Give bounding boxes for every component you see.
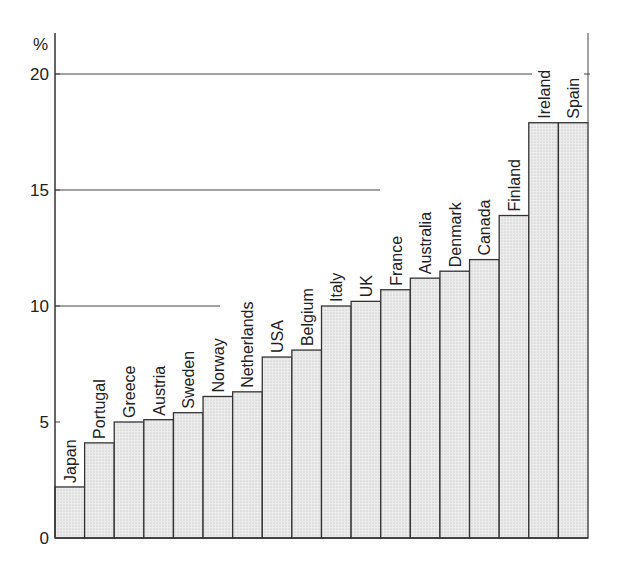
bar-austria <box>144 420 174 538</box>
bar-label-japan: Japan <box>62 439 79 483</box>
bar-sweden <box>173 413 203 538</box>
bar-spain <box>558 123 588 538</box>
y-unit-label: % <box>33 35 48 54</box>
bar-label-italy: Italy <box>328 273 345 302</box>
y-tick-label-20: 20 <box>30 65 49 84</box>
bar-finland <box>499 216 529 538</box>
bar-label-austria: Austria <box>151 366 168 416</box>
y-tick-label-15: 15 <box>30 181 49 200</box>
bar-uk <box>351 301 381 538</box>
bar-label-australia: Australia <box>417 212 434 274</box>
bar-usa <box>262 357 292 538</box>
y-tick-label-0: 0 <box>40 529 49 548</box>
bar-label-belgium: Belgium <box>299 288 316 346</box>
bar-label-ireland: Ireland <box>536 70 553 119</box>
bar-label-norway: Norway <box>210 338 227 392</box>
bar-norway <box>203 396 233 538</box>
bar-canada <box>470 260 500 538</box>
bar-label-portugal: Portugal <box>91 379 108 439</box>
bar-label-france: France <box>388 236 405 286</box>
bar-label-denmark: Denmark <box>447 201 464 267</box>
bar-italy <box>322 306 352 538</box>
bar-japan <box>55 487 85 538</box>
bar-belgium <box>292 350 322 538</box>
bar-label-uk: UK <box>358 275 375 298</box>
bar-ireland <box>529 123 559 538</box>
bar-portugal <box>85 443 115 538</box>
bar-denmark <box>440 271 470 538</box>
bar-label-greece: Greece <box>121 365 138 418</box>
bar-label-finland: Finland <box>506 159 523 211</box>
bar-greece <box>114 422 144 538</box>
bar-label-canada: Canada <box>476 199 493 255</box>
bar-label-sweden: Sweden <box>180 351 197 409</box>
bar-chart: JapanPortugalGreeceAustriaSwedenNorwayNe… <box>0 0 626 563</box>
bar-australia <box>410 278 440 538</box>
bar-france <box>381 290 411 538</box>
y-tick-label-10: 10 <box>30 297 49 316</box>
bar-label-usa: USA <box>269 320 286 353</box>
bar-label-spain: Spain <box>565 78 582 119</box>
bar-label-netherlands: Netherlands <box>239 302 256 388</box>
y-tick-label-5: 5 <box>40 413 49 432</box>
bar-netherlands <box>233 392 263 538</box>
